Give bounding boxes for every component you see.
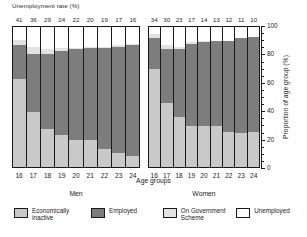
bar-men-22 bbox=[98, 27, 112, 167]
y-tick-90 bbox=[261, 40, 264, 41]
bar-men-20 bbox=[69, 27, 83, 167]
unemployment-rate-men-20: 22 bbox=[69, 15, 83, 25]
bar-women-20 bbox=[198, 27, 210, 167]
unemployment-rate-men-17: 36 bbox=[26, 15, 40, 25]
segment-inactive-men-21 bbox=[84, 140, 97, 167]
segment-inactive-women-23 bbox=[235, 133, 246, 167]
x-axis-title: Age groups bbox=[0, 177, 307, 184]
y-axis: Proportion of age group (%) 020406080100 bbox=[261, 26, 307, 168]
segment-scheme-men-17 bbox=[27, 47, 40, 54]
y-tick-5 bbox=[261, 161, 264, 162]
unemployment-rate-men-18: 29 bbox=[40, 15, 54, 25]
bar-women-21 bbox=[211, 27, 223, 167]
unemployment-rate-women-24: 10 bbox=[248, 15, 260, 25]
segment-employed-men-17 bbox=[27, 54, 40, 113]
segment-employed-women-23 bbox=[235, 38, 246, 133]
segment-unemployed-women-24 bbox=[248, 27, 259, 37]
segment-employed-women-18 bbox=[174, 49, 185, 116]
bar-men-18 bbox=[41, 27, 55, 167]
unemployment-rate-women-20: 14 bbox=[198, 15, 210, 25]
segment-unemployed-men-23 bbox=[112, 27, 125, 45]
y-tick-label-40: 40 bbox=[267, 108, 274, 114]
panel-label-women: Women bbox=[148, 190, 260, 197]
y-tick-50 bbox=[261, 97, 264, 98]
segment-inactive-men-17 bbox=[27, 112, 40, 167]
segment-unemployed-women-20 bbox=[198, 27, 209, 41]
bar-men-17 bbox=[27, 27, 41, 167]
segment-inactive-women-20 bbox=[198, 126, 209, 167]
bar-men-21 bbox=[84, 27, 98, 167]
unemployment-rate-women-17: 30 bbox=[160, 15, 172, 25]
segment-inactive-women-19 bbox=[186, 126, 197, 167]
plot-area-women bbox=[148, 26, 260, 168]
y-tick-25 bbox=[261, 133, 264, 134]
y-tick-20 bbox=[261, 140, 265, 141]
legend-swatch-unemployed bbox=[236, 208, 250, 218]
legend-swatch-scheme bbox=[163, 208, 177, 218]
y-tick-80 bbox=[261, 54, 265, 55]
y-tick-10 bbox=[261, 154, 264, 155]
y-tick-0 bbox=[261, 168, 265, 169]
segment-inactive-men-19 bbox=[55, 135, 68, 167]
segment-employed-women-24 bbox=[248, 37, 259, 132]
y-tick-label-0: 0 bbox=[267, 165, 271, 171]
segment-unemployed-men-20 bbox=[69, 27, 82, 48]
y-tick-75 bbox=[261, 62, 264, 63]
panel-women: 343023171413121110 161718192021222324 Wo… bbox=[148, 26, 260, 168]
y-tick-85 bbox=[261, 47, 264, 48]
segment-employed-men-22 bbox=[98, 48, 111, 149]
segment-unemployed-men-18 bbox=[41, 27, 54, 49]
y-tick-15 bbox=[261, 147, 264, 148]
bar-women-18 bbox=[174, 27, 186, 167]
segment-employed-women-19 bbox=[186, 44, 197, 127]
unemployment-rate-women-21: 13 bbox=[210, 15, 222, 25]
y-axis-title: Proportion of age group (%) bbox=[282, 55, 289, 139]
legend-item-inactive: Economically inactive bbox=[14, 207, 84, 222]
legend-label-scheme: On Government Scheme bbox=[181, 207, 230, 222]
unemployment-rate-values-women: 343023171413121110 bbox=[148, 15, 260, 25]
bar-women-16 bbox=[149, 27, 161, 167]
segment-unemployed-men-22 bbox=[98, 27, 111, 47]
segment-inactive-women-17 bbox=[161, 103, 172, 167]
y-tick-95 bbox=[261, 33, 264, 34]
y-tick-label-60: 60 bbox=[267, 80, 274, 86]
legend-label-inactive: Economically inactive bbox=[32, 207, 84, 222]
segment-inactive-women-21 bbox=[211, 126, 222, 167]
y-tick-45 bbox=[261, 104, 264, 105]
segment-unemployed-men-17 bbox=[27, 27, 40, 47]
legend-item-scheme: On Government Scheme bbox=[163, 207, 230, 222]
unemployment-rate-men-23: 17 bbox=[112, 15, 126, 25]
bar-women-22 bbox=[223, 27, 235, 167]
y-tick-55 bbox=[261, 90, 264, 91]
y-tick-35 bbox=[261, 118, 264, 119]
unemployment-rate-women-19: 17 bbox=[185, 15, 197, 25]
bar-men-19 bbox=[55, 27, 69, 167]
segment-employed-men-19 bbox=[55, 51, 68, 135]
plot-area-men bbox=[12, 26, 140, 168]
legend-swatch-employed bbox=[91, 208, 105, 218]
bar-men-16 bbox=[13, 27, 27, 167]
segment-employed-women-20 bbox=[198, 42, 209, 126]
unemployment-rate-men-16: 41 bbox=[12, 15, 26, 25]
chart-legend: Economically inactiveEmployedOn Governme… bbox=[14, 207, 299, 231]
segment-unemployed-women-21 bbox=[211, 27, 222, 41]
y-tick-label-20: 20 bbox=[267, 136, 274, 142]
y-tick-label-80: 80 bbox=[267, 51, 274, 57]
segment-inactive-women-18 bbox=[174, 117, 185, 167]
segment-employed-men-16 bbox=[13, 45, 26, 79]
legend-label-unemployed: Unemployed bbox=[254, 207, 289, 214]
segment-inactive-men-22 bbox=[98, 149, 111, 167]
unemployment-rate-men-24: 16 bbox=[126, 15, 140, 25]
segment-unemployed-women-19 bbox=[186, 27, 197, 42]
segment-employed-men-20 bbox=[69, 49, 82, 140]
segment-unemployed-men-21 bbox=[84, 27, 97, 47]
unemployment-rate-values-men: 413629242220191716 bbox=[12, 15, 140, 25]
panel-label-men: Men bbox=[12, 190, 140, 197]
segment-unemployed-women-16 bbox=[149, 27, 160, 34]
unemployment-rate-men-21: 20 bbox=[83, 15, 97, 25]
segment-unemployed-men-16 bbox=[13, 27, 26, 40]
segment-employed-women-17 bbox=[161, 49, 172, 102]
y-tick-label-100: 100 bbox=[267, 23, 278, 29]
segment-inactive-men-20 bbox=[69, 140, 82, 167]
unemployment-rate-women-18: 23 bbox=[173, 15, 185, 25]
